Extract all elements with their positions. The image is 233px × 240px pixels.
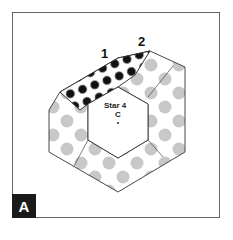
center-title: Star 4 [104,101,126,110]
center-point [117,122,119,124]
center-subtitle: C [115,110,121,119]
piece-label-2: 2 [138,34,145,49]
piece-label-1: 1 [101,46,108,61]
panel-badge-letter: A [19,198,30,215]
panel-badge: A [12,194,36,218]
